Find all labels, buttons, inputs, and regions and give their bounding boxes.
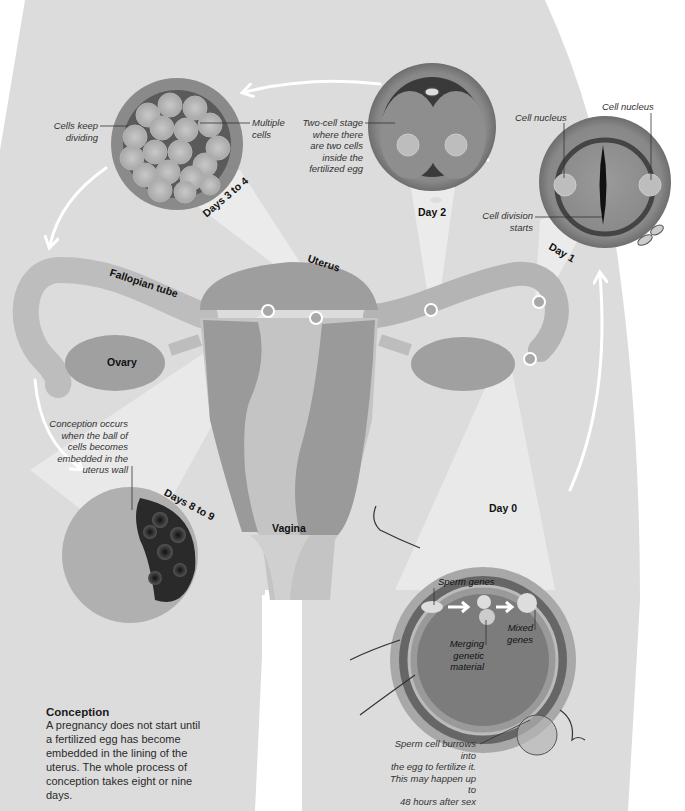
annotation-line: genes: [500, 634, 533, 646]
annotation-line: genetic: [440, 650, 484, 662]
annotation-cell-nucleus-right: Cell nucleus: [602, 101, 654, 113]
annotation-line: when the ball of: [30, 430, 128, 442]
days-8-to-9-cell: [62, 487, 198, 623]
annotation-line: inside the: [290, 152, 363, 164]
annotation-line: uterus wall: [30, 464, 128, 476]
annotation-line: the egg to fertilize it.: [380, 761, 476, 773]
label-vagina: Vagina: [272, 522, 306, 534]
annotation-line: Sperm cell burrows into: [380, 738, 476, 761]
annotation-line: starts: [470, 222, 533, 234]
annotation-line: embedded in the: [30, 453, 128, 465]
annotation-multiple-cells: Multiple cells: [252, 117, 285, 140]
caption-body: A pregnancy does not start until a ferti…: [46, 718, 221, 802]
annotation-cells-keep-dividing: Cells keep dividing: [40, 120, 98, 143]
annotation-line: dividing: [40, 132, 98, 144]
annotation-mixed-genes: Mixed genes: [500, 622, 533, 645]
annotation-line: Mixed: [500, 622, 533, 634]
annotation-line: 48 hours after sex: [380, 796, 476, 808]
annotation-line: Two-cell stage: [290, 117, 363, 129]
caption-line: uterus. The whole process of: [46, 760, 221, 774]
caption-line: embedded in the lining of the: [46, 746, 221, 760]
annotation-line: where there: [290, 129, 363, 141]
annotation-merging-genetic-material: Merging genetic material: [440, 638, 484, 673]
annotation-sperm-genes: Sperm genes: [438, 576, 495, 588]
annotation-cell-division: Cell division starts: [470, 210, 533, 233]
annotation-line: are two cells: [290, 140, 363, 152]
caption-title: Conception: [46, 706, 221, 718]
annotation-line: cells becomes: [30, 441, 128, 453]
annotation-line: Multiple: [252, 117, 285, 129]
annotation-conception-occurs: Conception occurs when the ball of cells…: [30, 418, 128, 476]
stage-label-day-2: Day 2: [418, 206, 446, 218]
caption-line: conception takes eight or nine days.: [46, 774, 221, 802]
annotation-line: cells: [252, 129, 285, 141]
annotation-cell-nucleus-left: Cell nucleus: [515, 112, 567, 124]
stage-label-day-0: Day 0: [489, 502, 517, 514]
caption-line: A pregnancy does not start until: [46, 718, 221, 732]
annotation-line: Cell division: [470, 210, 533, 222]
annotation-line: Merging: [440, 638, 484, 650]
ovary-right: [411, 337, 515, 391]
annotation-line: Cells keep: [40, 120, 98, 132]
label-ovary: Ovary: [107, 356, 137, 368]
annotation-line: This may happen up to: [380, 773, 476, 796]
caption-line: a fertilized egg has become: [46, 732, 221, 746]
annotation-line: Conception occurs: [30, 418, 128, 430]
annotation-sperm-burrows: Sperm cell burrows into the egg to ferti…: [380, 738, 476, 807]
annotation-line: material: [440, 661, 484, 673]
conception-caption: Conception A pregnancy does not start un…: [46, 706, 221, 802]
annotation-two-cell-stage: Two-cell stage where there are two cells…: [290, 117, 363, 175]
annotation-line: fertilized egg: [290, 163, 363, 175]
